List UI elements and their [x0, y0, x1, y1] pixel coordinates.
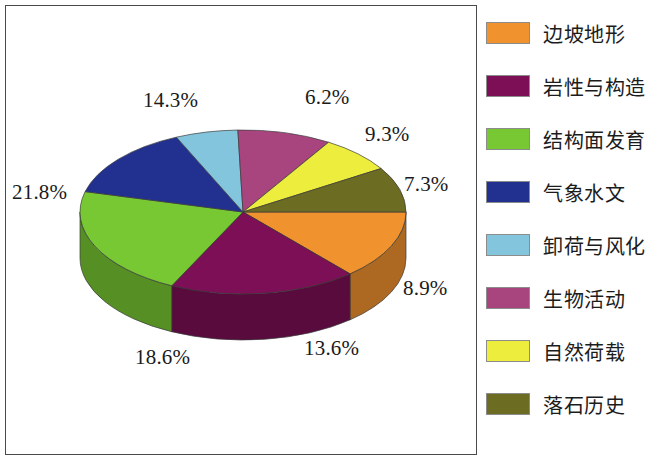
legend-color-swatch [486, 287, 530, 309]
pie-chart-figure: 边坡地形 13.6%岩性与构造 18.6%结构面发育 21.8%气象水文 14.… [0, 0, 647, 463]
chart-legend: 边坡地形岩性与构造结构面发育气象水文卸荷与风化生物活动自然荷载落石历史 [486, 20, 647, 440]
legend-color-swatch [486, 128, 530, 150]
legend-item-5[interactable]: 卸荷与风化 [486, 232, 646, 258]
legend-item-label: 卸荷与风化 [543, 231, 646, 260]
percentage-label: 8.9% [403, 276, 448, 301]
legend-item-4[interactable]: 气象水文 [486, 179, 625, 205]
percentage-label: 9.3% [365, 122, 410, 147]
pie-chart-canvas: 边坡地形 13.6%岩性与构造 18.6%结构面发育 21.8%气象水文 14.… [0, 0, 480, 463]
legend-item-label: 生物活动 [543, 284, 625, 313]
legend-color-swatch [486, 393, 530, 415]
legend-color-swatch [486, 234, 530, 256]
legend-color-swatch [486, 181, 530, 203]
legend-item-label: 自然荷载 [543, 337, 625, 366]
legend-item-6[interactable]: 生物活动 [486, 285, 625, 311]
legend-item-label: 岩性与构造 [543, 72, 646, 101]
percentage-label: 14.3% [143, 88, 198, 113]
legend-item-label: 结构面发育 [543, 125, 646, 154]
percentage-label: 7.3% [404, 172, 449, 197]
percentage-label: 21.8% [12, 180, 67, 205]
legend-color-swatch [486, 340, 530, 362]
legend-item-label: 气象水文 [543, 178, 625, 207]
legend-color-swatch [486, 22, 530, 44]
percentage-label: 13.6% [304, 336, 359, 361]
legend-item-1[interactable]: 边坡地形 [486, 20, 625, 46]
legend-item-label: 边坡地形 [543, 19, 625, 48]
legend-item-3[interactable]: 结构面发育 [486, 126, 646, 152]
percentage-label: 6.2% [305, 85, 350, 110]
legend-item-8[interactable]: 落石历史 [486, 391, 625, 417]
legend-item-7[interactable]: 自然荷载 [486, 338, 625, 364]
legend-item-label: 落石历史 [543, 390, 625, 419]
legend-color-swatch [486, 75, 530, 97]
percentage-label: 18.6% [135, 345, 190, 370]
legend-item-2[interactable]: 岩性与构造 [486, 73, 646, 99]
